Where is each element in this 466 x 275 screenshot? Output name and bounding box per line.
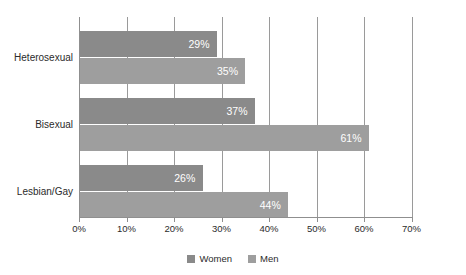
category-label-bisexual: Bisexual: [35, 119, 73, 130]
x-tick-label-10: 10%: [117, 223, 136, 234]
tick-mark-70: [412, 217, 413, 222]
square-swatch-icon: [187, 255, 195, 263]
plot-area: 29% 35% 37% 61% 26% 44%: [79, 17, 412, 217]
gridline-50: [317, 17, 318, 217]
square-swatch-icon: [248, 255, 256, 263]
category-label-heterosexual: Heterosexual: [14, 52, 73, 63]
legend-label-women: Women: [199, 253, 232, 264]
tick-mark-40: [269, 217, 270, 222]
legend-label-men: Men: [260, 253, 278, 264]
x-axis-line: [79, 217, 412, 218]
tick-mark-30: [222, 217, 223, 222]
bar-chart: 29% 35% 37% 61% 26% 44% Heterosexual Bis…: [0, 0, 466, 275]
bar-bisexual-women[interactable]: 37%: [79, 98, 255, 124]
x-tick-label-70: 70%: [402, 223, 421, 234]
bar-value-label: 26%: [174, 172, 195, 184]
bar-heterosexual-women[interactable]: 29%: [79, 31, 217, 57]
x-tick-label-50: 50%: [307, 223, 326, 234]
tick-mark-0: [79, 217, 80, 222]
bar-value-label: 37%: [226, 105, 247, 117]
category-axis: Heterosexual Bisexual Lesbian/Gay: [0, 0, 73, 275]
bar-value-label: 61%: [340, 132, 361, 144]
bar-value-label: 29%: [188, 38, 209, 50]
bar-value-label: 35%: [217, 65, 238, 77]
bar-lesbiangay-women[interactable]: 26%: [79, 165, 203, 191]
chart-legend: Women Men: [0, 253, 466, 264]
gridline-40: [269, 17, 270, 217]
x-tick-label-0: 0%: [72, 223, 86, 234]
x-tick-label-40: 40%: [259, 223, 278, 234]
legend-item-men[interactable]: Men: [248, 253, 278, 264]
bar-bisexual-men[interactable]: 61%: [79, 125, 369, 151]
x-tick-label-60: 60%: [354, 223, 373, 234]
x-tick-label-20: 20%: [164, 223, 183, 234]
bar-value-label: 44%: [260, 199, 281, 211]
legend-item-women[interactable]: Women: [187, 253, 232, 264]
tick-mark-20: [174, 217, 175, 222]
x-tick-label-30: 30%: [212, 223, 231, 234]
bar-heterosexual-men[interactable]: 35%: [79, 58, 245, 84]
tick-mark-10: [127, 217, 128, 222]
gridline-60: [364, 17, 365, 217]
category-label-lesbiangay: Lesbian/Gay: [17, 186, 73, 197]
tick-mark-50: [317, 217, 318, 222]
tick-mark-60: [364, 217, 365, 222]
y-axis-line: [79, 17, 80, 217]
gridline-70: [412, 17, 413, 217]
bar-lesbiangay-men[interactable]: 44%: [79, 192, 288, 218]
